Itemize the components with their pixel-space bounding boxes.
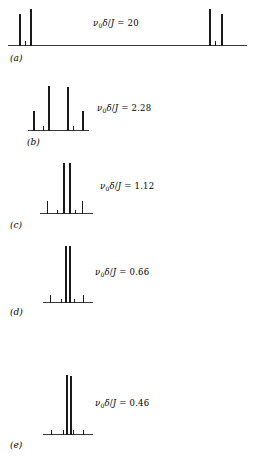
nmr-ab-spectra-figure: ν0δ/J = 20 (a) ν0δ/J = 2.28 (b) ν0δ/J = … bbox=[0, 0, 253, 461]
peak-satellite-left bbox=[63, 430, 64, 435]
peak-outer-left bbox=[50, 295, 51, 303]
panel-label-e: (e) bbox=[10, 440, 22, 450]
ratio-value-c: 1.12 bbox=[135, 181, 155, 191]
panel-label-b: (b) bbox=[27, 137, 40, 147]
panel-a: ν0δ/J = 20 (a) bbox=[0, 6, 253, 78]
panel-c: ν0δ/J = 1.12 (c) bbox=[0, 162, 253, 240]
peak-satellite-left bbox=[57, 210, 58, 214]
ratio-label-c: ν0δ/J = 1.12 bbox=[100, 181, 154, 192]
peak-outer-left bbox=[33, 111, 35, 131]
panel-e: ν0δ/J = 0.46 (e) bbox=[0, 375, 253, 461]
baseline-c bbox=[40, 213, 93, 214]
ratio-value-e: 0.46 bbox=[130, 398, 150, 408]
panel-label-c: (c) bbox=[10, 220, 22, 230]
peak-outer-right bbox=[221, 14, 223, 46]
panel-label-a: (a) bbox=[10, 53, 22, 63]
peak-inner-left bbox=[30, 9, 32, 46]
peak-outer-left bbox=[51, 430, 52, 435]
peak-inner-left bbox=[48, 86, 50, 131]
peak-outer-right bbox=[83, 295, 84, 303]
ratio-value-d: 0.66 bbox=[130, 267, 150, 277]
spectrum-plot-d bbox=[43, 245, 93, 303]
peak-outer-right bbox=[82, 201, 83, 214]
peak-satellite-right bbox=[75, 210, 76, 214]
peak-satellite-right bbox=[73, 430, 74, 435]
peak-inner-right bbox=[69, 163, 71, 214]
peak-satellite-left bbox=[61, 299, 62, 303]
peak-inner-left bbox=[65, 246, 67, 303]
peak-satellite-right bbox=[74, 299, 75, 303]
spectrum-plot-b bbox=[28, 85, 89, 131]
baseline-a bbox=[8, 45, 247, 46]
peak-satellite-right bbox=[215, 41, 216, 46]
peak-inner-left bbox=[66, 375, 68, 435]
peak-satellite-right bbox=[73, 126, 74, 131]
peak-inner-right bbox=[70, 376, 72, 435]
panel-d: ν0δ/J = 0.66 (d) bbox=[0, 245, 253, 327]
spectrum-plot-e bbox=[43, 375, 93, 435]
spectrum-plot-c bbox=[40, 162, 93, 214]
peak-satellite-left bbox=[43, 126, 44, 131]
ratio-value-a: 20 bbox=[128, 18, 139, 28]
peak-outer-left bbox=[47, 201, 48, 214]
peak-outer-right bbox=[82, 111, 84, 131]
peak-inner-right bbox=[67, 87, 69, 131]
peak-outer-left bbox=[19, 14, 21, 46]
panel-b: ν0δ/J = 2.28 (b) bbox=[0, 85, 253, 157]
peak-inner-right bbox=[209, 9, 211, 46]
peak-inner-left bbox=[63, 163, 65, 214]
peak-outer-right bbox=[83, 430, 84, 435]
baseline-b bbox=[28, 130, 89, 131]
peak-satellite-left bbox=[25, 41, 26, 46]
ratio-label-e: ν0δ/J = 0.46 bbox=[95, 398, 149, 409]
ratio-label-d: ν0δ/J = 0.66 bbox=[95, 267, 149, 278]
ratio-label-a: ν0δ/J = 20 bbox=[93, 18, 139, 29]
peak-inner-right bbox=[69, 246, 71, 303]
ratio-value-b: 2.28 bbox=[132, 103, 152, 113]
ratio-label-b: ν0δ/J = 2.28 bbox=[97, 103, 151, 114]
panel-label-d: (d) bbox=[10, 307, 23, 317]
